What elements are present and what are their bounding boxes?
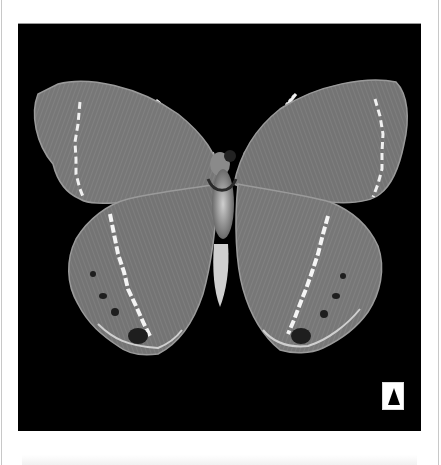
- specimen-photo-panel: [18, 23, 421, 431]
- view-indicator-badge: [382, 382, 404, 410]
- left-hindwing: [69, 184, 218, 355]
- right-forewing: [234, 80, 407, 203]
- cropped-caption-strip: [22, 455, 417, 465]
- right-hindwing: [236, 184, 382, 353]
- butterfly-illustration: [18, 24, 421, 431]
- left-forewing: [34, 81, 223, 203]
- page-border-left: [1, 0, 2, 465]
- page-border-right: [438, 0, 439, 465]
- triangle-up-icon: [388, 388, 400, 405]
